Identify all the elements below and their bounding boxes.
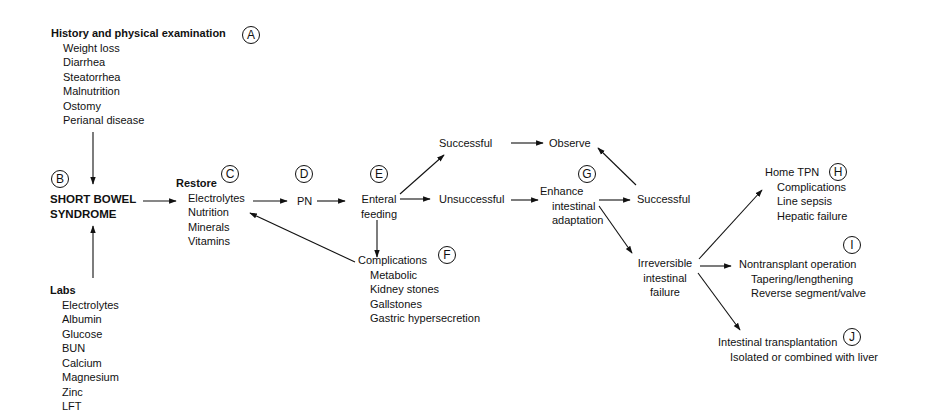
enhance-line1: Enhance [540,184,603,199]
irreversible-line2: intestinal [632,271,698,286]
enhance-line2: intestinal [540,199,603,214]
enteral-line2: feeding [356,207,402,222]
arrow-complications-to-restore [250,213,355,262]
history-item: Perianal disease [51,113,226,128]
restore-item: Minerals [176,220,245,235]
unsuccessful: Unsuccessful [439,192,504,207]
label-c-badge: C [221,165,239,183]
arrow-enteral-to-successful [400,155,444,194]
labs-title: Labs [50,283,119,298]
enhance-block: Enhance intestinal adaptation [540,184,603,228]
hometpn-item: Line sepsis [765,194,847,209]
complications-item: Gastric hypersecretion [358,311,480,326]
nontransplant-title: Nontransplant operation [739,257,866,272]
history-title: History and physical examination [51,26,226,41]
history-item: Weight loss [51,41,226,56]
labs-item: Albumin [50,312,119,327]
complications-block: Complications Metabolic Kidney stones Ga… [358,253,480,326]
label-b-badge: B [51,170,69,188]
history-item: Malnutrition [51,84,226,99]
label-d-badge: D [295,165,313,183]
history-item: Steatorrhea [51,70,226,85]
irreversible-line1: Irreversible [632,256,698,271]
labs-item: BUN [50,341,119,356]
restore-block: Restore Electrolytes Nutrition Minerals … [176,176,245,249]
label-h-badge: H [829,163,847,181]
arrow-successful-to-observe-back [598,148,636,185]
label-i-badge: I [843,236,861,254]
nontransplant-block: Nontransplant operation Tapering/lengthe… [739,257,866,301]
observe: Observe [549,136,591,151]
nontransplant-item: Tapering/lengthening [739,272,866,287]
labs-item: Magnesium [50,370,119,385]
arrow-enhance-to-irreversible [599,206,632,253]
arrow-irreversible-to-hometpn [699,190,762,259]
successful-2: Successful [637,192,690,207]
label-g-badge: G [578,165,596,183]
labs-item: Electrolytes [50,298,119,313]
hometpn-item: Complications [765,180,847,195]
sbs-line1: SHORT BOWEL [50,192,136,207]
enteral-block: Enteral feeding [356,192,402,221]
history-block: History and physical examination Weight … [51,26,226,128]
labs-item: LFT [50,399,119,411]
restore-item: Electrolytes [176,191,245,206]
arrow-irreversible-to-transplant [698,273,740,330]
pn-text: PN [297,194,312,209]
labs-item: Calcium [50,356,119,371]
complications-item: Gallstones [358,297,480,312]
restore-item: Vitamins [176,234,245,249]
irreversible-line3: failure [632,285,698,300]
history-item: Diarrhea [51,55,226,70]
restore-item: Nutrition [176,205,245,220]
hometpn-item: Hepatic failure [765,209,847,224]
label-f-badge: F [438,246,456,264]
enteral-line1: Enteral [356,192,402,207]
label-e-badge: E [370,165,388,183]
history-item: Ostomy [51,99,226,114]
nontransplant-item: Reverse segment/valve [739,286,866,301]
enhance-line3: adaptation [540,213,603,228]
sbs-line2: SYNDROME [50,207,136,222]
labs-block: Labs Electrolytes Albumin Glucose BUN Ca… [50,283,119,411]
transplant-item: Isolated or combined with liver [718,350,878,365]
irreversible-block: Irreversible intestinal failure [632,256,698,300]
complications-item: Metabolic [358,268,480,283]
labs-item: Glucose [50,327,119,342]
complications-title: Complications [358,253,480,268]
sbs-block: SHORT BOWEL SYNDROME [50,192,136,221]
label-j-badge: J [843,328,861,346]
label-a-badge: A [242,26,260,44]
successful-1: Successful [439,136,492,151]
labs-item: Zinc [50,385,119,400]
complications-item: Kidney stones [358,282,480,297]
